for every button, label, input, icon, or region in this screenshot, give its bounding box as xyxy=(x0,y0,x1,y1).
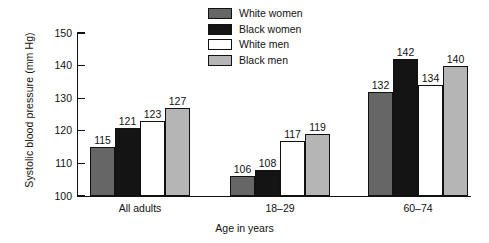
bar-value-label: 140 xyxy=(447,54,465,65)
legend-label: Black men xyxy=(239,55,288,66)
y-axis-title: Systolic blood pressure (mm Hg) xyxy=(23,20,35,200)
y-axis-tick-value: 100 xyxy=(46,191,72,202)
bar-value-label: 117 xyxy=(284,129,301,140)
bar-value-label: 134 xyxy=(422,73,440,84)
bar: 123 xyxy=(140,121,165,196)
bar-value-label: 132 xyxy=(372,80,390,91)
x-axis-category-label: 18–29 xyxy=(230,202,330,214)
bar: 142 xyxy=(393,59,418,196)
bar-value-label: 115 xyxy=(94,135,111,146)
bar-value-label: 119 xyxy=(309,122,326,133)
y-axis-tick-value: 150 xyxy=(46,28,72,39)
bar: 127 xyxy=(165,108,190,196)
bar: 121 xyxy=(115,128,140,196)
bar-value-label: 108 xyxy=(259,158,277,169)
bar: 117 xyxy=(280,141,305,196)
bar-chart: Systolic blood pressure (mm Hg) 10011012… xyxy=(0,0,489,243)
y-axis-tick-value: 120 xyxy=(46,125,72,136)
legend-swatch xyxy=(208,8,232,19)
legend-item: Black women xyxy=(208,22,303,38)
y-axis-tick-value: 110 xyxy=(46,158,72,169)
x-axis-title: Age in years xyxy=(0,222,489,234)
x-axis-category-label: 60–74 xyxy=(368,202,468,214)
legend-label: Black women xyxy=(239,24,301,35)
bar-value-label: 127 xyxy=(169,96,187,107)
legend-item: White men xyxy=(208,37,303,53)
legend: White womenBlack womenWhite menBlack men xyxy=(208,6,303,68)
y-axis-tick-label: 120 xyxy=(44,125,72,136)
legend-item: White women xyxy=(208,6,303,22)
y-axis-tick-label: 110 xyxy=(44,158,72,169)
legend-label: White men xyxy=(239,39,289,50)
legend-swatch xyxy=(208,39,232,50)
bar-value-label: 142 xyxy=(397,47,415,58)
legend-swatch xyxy=(208,55,232,66)
bar: 119 xyxy=(305,134,330,196)
y-axis-tick-label: 100 xyxy=(44,191,72,202)
bar: 134 xyxy=(418,85,443,196)
bar-value-label: 121 xyxy=(119,116,137,127)
legend-item: Black men xyxy=(208,53,303,69)
bar-value-label: 123 xyxy=(144,109,162,120)
y-axis-tick-label: 140 xyxy=(44,60,72,71)
bar-group: 115121123127 xyxy=(90,33,190,196)
bar: 140 xyxy=(443,66,468,196)
bar: 106 xyxy=(230,176,255,196)
bar: 115 xyxy=(90,147,115,196)
bar: 108 xyxy=(255,170,280,196)
y-axis-tick-label: 150 xyxy=(44,28,72,39)
bar-group: 132142134140 xyxy=(368,33,468,196)
y-axis-tick-value: 140 xyxy=(46,60,72,71)
legend-label: White women xyxy=(239,8,303,19)
bar-value-label: 106 xyxy=(234,164,252,175)
y-axis-tick-value: 130 xyxy=(46,93,72,104)
x-axis-category-label: All adults xyxy=(90,202,190,214)
y-axis-tick-label: 130 xyxy=(44,93,72,104)
legend-swatch xyxy=(208,24,232,35)
bar: 132 xyxy=(368,92,393,196)
